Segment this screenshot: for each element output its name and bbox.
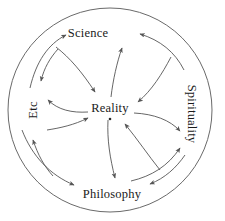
edge-spirituality-to-reality: [138, 57, 171, 102]
node-label-reality: Reality: [91, 102, 129, 115]
edge-spirituality-to-science: [140, 34, 184, 70]
edge-science-to-etc: [41, 49, 58, 81]
edge-etc-to-philosophy: [22, 130, 74, 185]
edge-etc-to-science: [30, 35, 66, 88]
node-label-spirituality: Spirituality: [186, 85, 199, 144]
edge-reality-to-etc: [48, 100, 88, 112]
edge-philosophy-to-reality: [125, 124, 160, 170]
reality-pinwheel-diagram: Science Spirituality Philosophy Etc Real…: [0, 0, 225, 221]
edge-reality-to-philosophy: [108, 120, 115, 178]
reality-center-dot: [109, 118, 112, 121]
node-label-science: Science: [68, 27, 108, 40]
edge-science-to-reality: [56, 47, 95, 92]
node-label-philosophy: Philosophy: [83, 188, 141, 201]
edge-etc-to-reality: [47, 118, 88, 130]
edge-spirituality-to-philosophy: [150, 155, 185, 184]
edge-reality-to-spirituality: [134, 113, 180, 131]
node-label-etc: Etc: [27, 101, 40, 118]
edge-reality-to-science: [111, 48, 122, 97]
